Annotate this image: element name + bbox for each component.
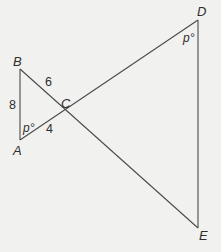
angle-label-a: p°	[22, 121, 35, 135]
geometry-diagram: B A C D E 8 6 4 p° p°	[0, 0, 221, 252]
point-label-a: A	[12, 143, 22, 158]
point-label-d: D	[197, 4, 206, 19]
side-label-ac: 4	[46, 122, 53, 136]
side-label-ab: 8	[9, 98, 16, 112]
point-label-e: E	[199, 228, 208, 243]
segment-be	[20, 69, 198, 228]
point-label-b: B	[13, 54, 22, 69]
point-label-c: C	[61, 96, 71, 111]
side-label-bc: 6	[45, 75, 52, 89]
angle-label-d: p°	[182, 31, 195, 45]
